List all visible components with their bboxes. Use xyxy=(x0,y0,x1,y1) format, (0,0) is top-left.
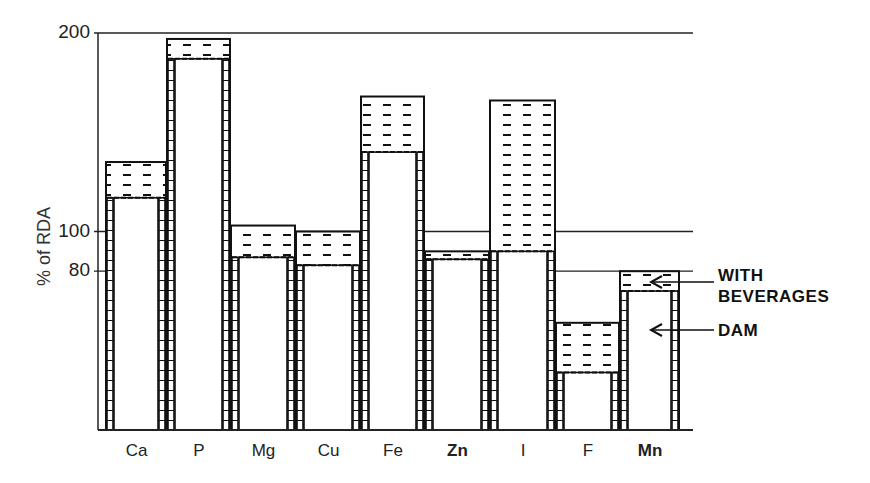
x-label-P: P xyxy=(169,441,229,461)
bar-Ca xyxy=(106,162,166,430)
annotation-with-line2: BEVERAGES xyxy=(718,286,829,307)
y-tick-100: 100 xyxy=(30,220,90,242)
bar-I xyxy=(490,100,555,430)
bar-Mn xyxy=(620,271,679,430)
bar-Fe xyxy=(361,97,424,430)
bar-dam-Zn xyxy=(433,259,481,430)
bar-dam-Fe xyxy=(369,152,416,430)
bar-dam-P xyxy=(175,59,222,430)
bar-dam-Cu xyxy=(304,265,352,430)
bar-dam-Mg xyxy=(239,257,287,430)
x-label-Mg: Mg xyxy=(234,441,294,461)
x-label-I: I xyxy=(493,441,553,461)
arrow-with-beverages-icon xyxy=(651,276,714,288)
x-label-Ca: Ca xyxy=(107,441,167,461)
bar-Zn xyxy=(425,251,489,430)
bars xyxy=(106,39,679,430)
bar-chart xyxy=(0,0,870,483)
arrow-dam-icon xyxy=(651,324,714,336)
bar-P xyxy=(167,39,230,430)
y-axis-label: % of RDA xyxy=(34,197,55,297)
bar-F xyxy=(556,323,619,430)
annotation-with-beverages: WITH BEVERAGES xyxy=(718,265,829,307)
annotation-with-line1: WITH xyxy=(718,265,829,286)
x-label-Mn: Mn xyxy=(620,441,680,461)
y-tick-200: 200 xyxy=(30,21,90,43)
bar-dam-F xyxy=(564,372,611,430)
bar-Mg xyxy=(231,226,295,430)
annotation-dam: DAM xyxy=(718,320,758,341)
x-label-Cu: Cu xyxy=(299,441,359,461)
bar-Cu xyxy=(296,232,360,431)
x-label-Fe: Fe xyxy=(363,441,423,461)
bar-dam-Mn xyxy=(628,291,671,430)
y-tick-80: 80 xyxy=(30,259,90,281)
bar-dam-Ca xyxy=(114,198,158,430)
bar-dam-I xyxy=(498,251,547,430)
x-label-Zn: Zn xyxy=(428,441,488,461)
x-label-F: F xyxy=(558,441,618,461)
